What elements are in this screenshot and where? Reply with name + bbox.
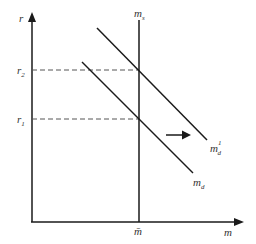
y-axis-label: r bbox=[19, 12, 24, 24]
demand-curve-label: md bbox=[193, 176, 205, 191]
y-axis bbox=[28, 12, 36, 222]
x-axis-arrow-icon bbox=[234, 218, 244, 226]
diagram-canvas: r m r2 r1 ms md m1d m̄ bbox=[0, 0, 256, 244]
demand-shifted-curve-label: m1d bbox=[210, 139, 221, 157]
x-axis-label: m bbox=[224, 226, 232, 238]
r1-label: r1 bbox=[17, 113, 25, 128]
m-bar-label: m̄ bbox=[134, 225, 142, 237]
money-demand-curve bbox=[82, 62, 193, 173]
y-axis-arrow-icon bbox=[28, 12, 36, 22]
r2-label: r2 bbox=[17, 64, 25, 79]
money-demand-shifted-curve bbox=[97, 28, 207, 140]
supply-curve-label: ms bbox=[134, 7, 145, 22]
shift-right-arrow-icon bbox=[166, 131, 191, 140]
